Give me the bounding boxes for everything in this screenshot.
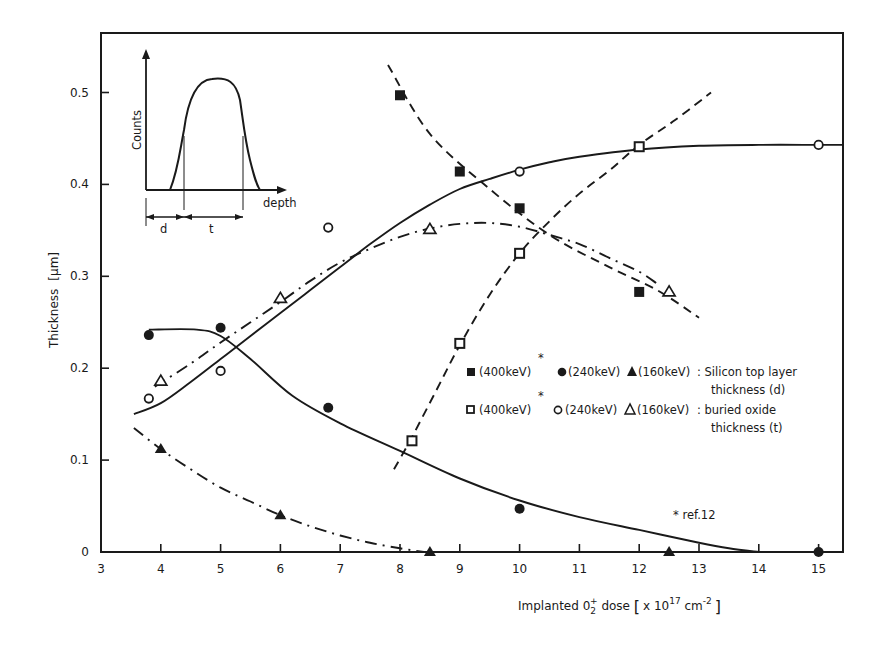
open-circle-marker bbox=[216, 367, 224, 375]
open-square-marker bbox=[407, 436, 416, 445]
open-circle-icon bbox=[554, 406, 561, 413]
x-tick-label: 3 bbox=[97, 562, 105, 576]
x-tick-label: 8 bbox=[396, 562, 404, 576]
open-triangle-marker bbox=[274, 292, 286, 302]
inset-depth-label: depth bbox=[263, 196, 296, 210]
x-tick-label: 10 bbox=[512, 562, 527, 576]
filled-square-marker bbox=[395, 90, 405, 100]
x-tick-label: 14 bbox=[751, 562, 766, 576]
y-axis-title: Thickness[µm] bbox=[47, 252, 61, 349]
open-square-marker bbox=[455, 339, 464, 348]
open-circle-marker bbox=[324, 223, 332, 231]
y-tick-label: 0.3 bbox=[70, 269, 89, 283]
open-square-marker bbox=[515, 249, 524, 258]
open-circle-marker bbox=[814, 141, 822, 149]
legend: (400keV) * (240keV) (160keV) : Silicon t… bbox=[467, 351, 797, 435]
fit-curve bbox=[149, 329, 759, 552]
filled-square-marker bbox=[515, 203, 525, 213]
plot-frame bbox=[101, 33, 843, 552]
filled-square-icon bbox=[467, 368, 475, 376]
filled-circle-marker bbox=[216, 323, 226, 333]
open-circle-marker bbox=[515, 167, 523, 175]
fit-curves bbox=[134, 65, 843, 552]
open-triangle-icon bbox=[625, 404, 635, 414]
x-tick-label: 11 bbox=[572, 562, 587, 576]
svg-text:: buried oxide: : buried oxide bbox=[697, 403, 776, 417]
inset-counts-label: Counts bbox=[130, 110, 144, 150]
filled-triangle-marker bbox=[155, 443, 167, 453]
inset-t-label: t bbox=[209, 222, 214, 236]
filled-circle-marker bbox=[323, 403, 333, 413]
svg-text:(400keV): (400keV) bbox=[479, 403, 531, 417]
filled-circle-marker bbox=[814, 547, 824, 557]
open-square-marker bbox=[635, 142, 644, 151]
y-tick-label: 0.1 bbox=[70, 453, 89, 467]
svg-text:*: * bbox=[538, 389, 544, 403]
filled-square-marker bbox=[634, 287, 644, 297]
y-tick-label: 0.5 bbox=[70, 86, 89, 100]
svg-text:(400keV): (400keV) bbox=[479, 365, 531, 379]
filled-square-marker bbox=[455, 167, 465, 177]
x-tick-label: 9 bbox=[456, 562, 464, 576]
fit-curve bbox=[155, 223, 657, 387]
x-tick-label: 12 bbox=[632, 562, 647, 576]
svg-text:: Silicon top layer: : Silicon top layer bbox=[697, 365, 797, 379]
svg-text:thickness (d): thickness (d) bbox=[711, 383, 785, 397]
open-triangle-marker bbox=[663, 286, 675, 296]
filled-circle-marker bbox=[515, 504, 525, 514]
svg-text:(160keV): (160keV) bbox=[637, 403, 689, 417]
filled-circle-marker bbox=[144, 330, 154, 340]
y-tick-label: 0.2 bbox=[70, 361, 89, 375]
x-tick-label: 5 bbox=[217, 562, 225, 576]
inset-depth-profile: d t depth Counts bbox=[130, 49, 296, 236]
x-tick-label: 7 bbox=[336, 562, 344, 576]
inset-d-label: d bbox=[160, 222, 167, 236]
svg-text:(240keV): (240keV) bbox=[565, 403, 617, 417]
ref-annotation: * ref.12 bbox=[673, 508, 715, 522]
legend-row-silicon: (400keV) * (240keV) (160keV) : Silicon t… bbox=[467, 351, 797, 397]
svg-text:(160keV): (160keV) bbox=[638, 365, 690, 379]
x-tick-label: 6 bbox=[277, 562, 285, 576]
x-axis-title: Implanted 02+ dose [x 1017 cm-2] bbox=[518, 596, 721, 616]
filled-triangle-icon bbox=[627, 366, 637, 376]
inset-x-arrow-icon bbox=[277, 186, 287, 194]
open-triangle-marker bbox=[155, 375, 167, 385]
fit-curve bbox=[134, 428, 424, 552]
open-circle-marker bbox=[145, 394, 153, 402]
filled-circle-icon bbox=[558, 368, 567, 377]
x-tick-label: 4 bbox=[157, 562, 165, 576]
open-square-icon bbox=[467, 406, 474, 413]
x-axis-ticks: 3456789101112131415 bbox=[97, 544, 826, 576]
svg-text:(240keV): (240keV) bbox=[568, 365, 620, 379]
chart: 3456789101112131415 00.10.20.30.40.5 Thi… bbox=[0, 0, 883, 647]
svg-text:thickness (t): thickness (t) bbox=[711, 421, 782, 435]
inset-y-arrow-icon bbox=[142, 49, 150, 59]
svg-text:*: * bbox=[538, 351, 544, 365]
x-tick-label: 15 bbox=[811, 562, 826, 576]
y-axis-ticks: 00.10.20.30.40.5 bbox=[70, 86, 109, 560]
y-tick-label: 0.4 bbox=[70, 177, 89, 191]
svg-text:Thickness[µm]: Thickness[µm] bbox=[47, 252, 61, 349]
y-tick-label: 0 bbox=[81, 545, 89, 559]
x-tick-label: 13 bbox=[691, 562, 706, 576]
